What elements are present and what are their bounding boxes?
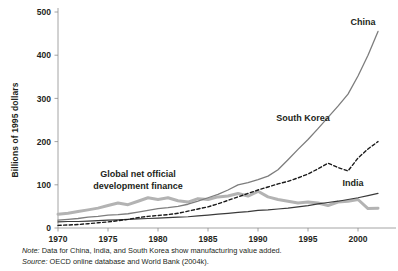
y-axis-tick-label: 100 — [37, 180, 51, 190]
series-annotation-global-net-official-development-finance: development finance — [93, 181, 183, 191]
y-axis-tick-label: 200 — [37, 137, 51, 147]
line-chart: 0100200300400500197019751980198519901995… — [0, 0, 398, 271]
x-axis-tick-label: 1985 — [199, 234, 218, 244]
series-label-india: India — [342, 178, 364, 188]
y-axis-title: Billions of 1995 dollars — [10, 82, 20, 177]
y-axis-tick-label: 300 — [37, 94, 51, 104]
source-text: OECD online database and World Bank (200… — [47, 257, 208, 266]
x-axis-tick-label: 1970 — [49, 234, 68, 244]
source-line: Source: OECD online database and World B… — [22, 257, 392, 268]
x-axis-tick-label: 2000 — [349, 234, 368, 244]
series-line-china — [58, 31, 378, 220]
series-label-china: China — [350, 17, 376, 27]
x-axis-tick-label: 1995 — [299, 234, 318, 244]
note-text: Data for China, India, and South Korea s… — [40, 246, 282, 255]
x-axis-tick-label: 1980 — [149, 234, 168, 244]
chart-figure: 0100200300400500197019751980198519901995… — [0, 0, 398, 271]
x-axis-tick-label: 1990 — [249, 234, 268, 244]
series-annotation-global-net-official-development-finance: Global net official — [100, 169, 176, 179]
y-axis-tick-label: 400 — [37, 50, 51, 60]
x-axis-tick-label: 1975 — [99, 234, 118, 244]
source-label: Source: — [22, 257, 47, 266]
y-axis-tick-label: 500 — [37, 7, 51, 17]
series-label-south-korea: South Korea — [276, 113, 330, 123]
y-axis-tick-label: 0 — [46, 223, 51, 233]
note-label: Note: — [22, 246, 40, 255]
note-line: Note: Data for China, India, and South K… — [22, 246, 392, 257]
chart-footnotes: Note: Data for China, India, and South K… — [22, 246, 392, 267]
